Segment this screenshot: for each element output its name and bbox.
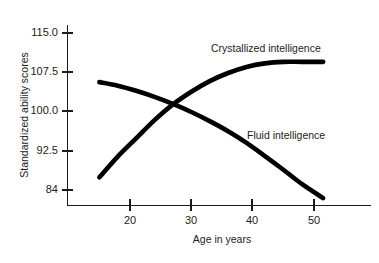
chart-canvas: 115.0 107.5 100.0 92.5 84 20 30 40 50 Ag… xyxy=(0,0,379,263)
y-tick-label-92: 92.5 xyxy=(37,144,58,156)
x-tick-label-50: 50 xyxy=(308,214,320,226)
chart-figure: 115.0 107.5 100.0 92.5 84 20 30 40 50 Ag… xyxy=(0,0,379,263)
series-label-fluid: Fluid intelligence xyxy=(247,129,325,141)
y-axis-title: Standardized ability scores xyxy=(18,52,30,177)
y-tick-label-84: 84 xyxy=(46,183,58,195)
y-tick-label-115: 115.0 xyxy=(31,26,58,38)
x-tick-label-40: 40 xyxy=(246,214,258,226)
series-label-crystallized: Crystallized intelligence xyxy=(211,42,321,54)
x-axis-title: Age in years xyxy=(193,233,251,245)
x-tick-label-20: 20 xyxy=(124,214,136,226)
y-tick-label-100: 100.0 xyxy=(30,104,58,116)
y-tick-label-107: 107.5 xyxy=(30,65,58,77)
x-tick-label-30: 30 xyxy=(185,214,197,226)
